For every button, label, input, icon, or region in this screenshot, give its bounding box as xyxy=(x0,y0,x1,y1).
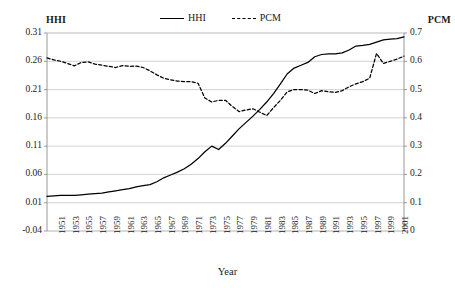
left-axis-tick-label: 0.26 xyxy=(25,56,42,66)
right-axis-tick-label: 0.1 xyxy=(410,198,422,208)
right-axis-tick-label: 0.2 xyxy=(410,169,422,179)
x-axis-tick-label: 1995 xyxy=(360,216,369,234)
left-axis-tick-label: 0.31 xyxy=(25,28,42,38)
left-axis-tick-label: 0.21 xyxy=(25,85,42,95)
series-line-pcm xyxy=(47,53,404,115)
legend-line-solid-icon xyxy=(160,18,184,19)
legend-label-hhi: HHI xyxy=(188,13,206,23)
x-axis-tick-label: 1979 xyxy=(250,216,259,234)
x-axis-tick-label: 1977 xyxy=(236,216,245,234)
chart-legend: HHI PCM xyxy=(160,13,281,23)
x-axis-tick-label: 1975 xyxy=(223,216,232,234)
x-axis-tick-label: 1965 xyxy=(154,216,163,234)
x-axis-tick-label: 1993 xyxy=(346,216,355,234)
left-axis-title: HHI xyxy=(46,14,66,25)
plot-area xyxy=(0,0,455,288)
x-axis-tick-label: 1973 xyxy=(209,216,218,234)
right-axis-tick-label: 0.3 xyxy=(410,141,422,151)
right-axis-tick-label: 0.5 xyxy=(410,85,422,95)
right-axis-tick-label: 0 xyxy=(410,226,415,236)
right-axis-title: PCM xyxy=(428,14,451,25)
right-axis-tick-label: 0.7 xyxy=(410,28,422,38)
chart-root: HHI PCM HHI PCM 0.310.260.210.160.110.06… xyxy=(0,0,455,288)
x-axis-tick-label: 1957 xyxy=(99,216,108,234)
x-axis-tick-label: 1989 xyxy=(319,216,328,234)
left-axis-tick-label: 0.11 xyxy=(26,141,42,151)
legend-entry-pcm: PCM xyxy=(232,13,281,23)
x-axis-tick-label: 1961 xyxy=(127,216,136,234)
x-axis-tick-label: 1955 xyxy=(85,216,94,234)
x-axis-tick-label: 1963 xyxy=(140,216,149,234)
left-axis-tick-label: 0.16 xyxy=(25,113,42,123)
x-axis-tick-label: 1953 xyxy=(72,216,81,234)
right-axis-tick-label: 0.6 xyxy=(410,56,422,66)
legend-entry-hhi: HHI xyxy=(160,13,206,23)
x-axis-title: Year xyxy=(0,266,455,277)
x-axis-tick-label: 1981 xyxy=(264,216,273,234)
x-axis-tick-label: 1999 xyxy=(387,216,396,234)
x-axis-tick-label: 1983 xyxy=(278,216,287,234)
left-axis-tick-label: 0.06 xyxy=(25,169,42,179)
left-axis-tick-label: 0.01 xyxy=(25,198,42,208)
x-axis-tick-label: 1997 xyxy=(374,216,383,234)
x-axis-tick-label: 1987 xyxy=(305,216,314,234)
x-axis-tick-label: 1967 xyxy=(168,216,177,234)
x-axis-tick-label: 1959 xyxy=(113,216,122,234)
x-axis-tick-label: 1951 xyxy=(58,216,67,234)
x-axis-tick-label: 1971 xyxy=(195,216,204,234)
x-axis-tick-label: 1991 xyxy=(332,216,341,234)
legend-line-dashed-icon xyxy=(232,18,256,19)
x-axis-tick-label: 2001 xyxy=(401,216,410,234)
x-axis-tick-label: 1969 xyxy=(181,216,190,234)
left-axis-tick-label: -0.04 xyxy=(22,226,42,236)
x-axis-tick-label: 1985 xyxy=(291,216,300,234)
right-axis-tick-label: 0.4 xyxy=(410,113,422,123)
legend-label-pcm: PCM xyxy=(260,13,281,23)
